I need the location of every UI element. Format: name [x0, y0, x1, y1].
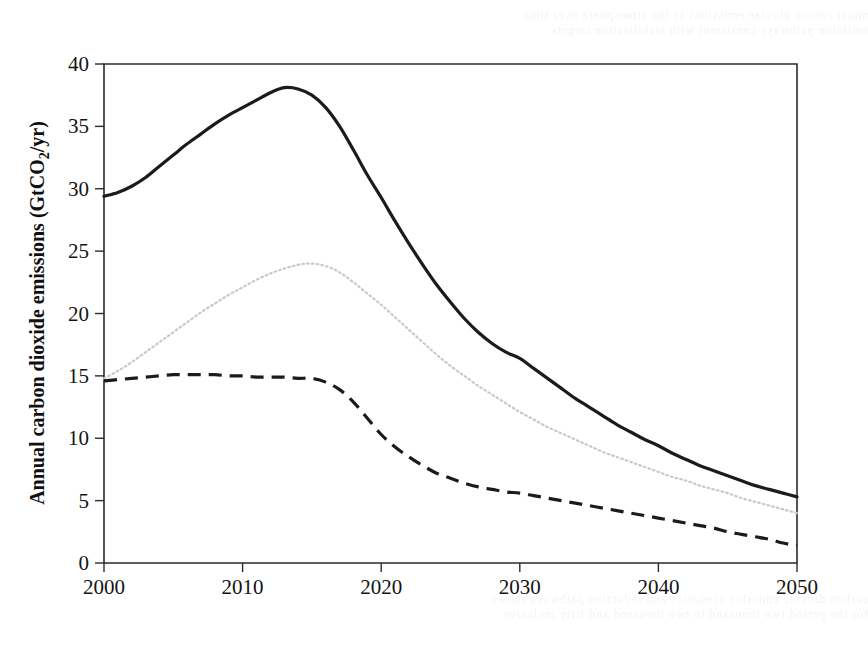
y-tick-label: 20 — [68, 302, 89, 326]
x-tick-label: 2030 — [499, 575, 541, 599]
y-tick-label: 15 — [68, 364, 89, 388]
y-tick-label: 30 — [68, 177, 89, 201]
figure-container: nnuai caroon aioxiae emissions in tne at… — [0, 0, 868, 647]
y-axis-title-prefix: Annual carbon dioxide emissions (GtCO — [26, 159, 49, 505]
y-tick-label: 10 — [68, 426, 89, 450]
svg-text:Annual carbon dioxide emission: Annual carbon dioxide emissions (GtCO2/y… — [26, 121, 52, 505]
x-tick-label: 2010 — [222, 575, 264, 599]
y-axis-ticks: 0510152025303540 — [68, 52, 104, 575]
x-tick-label: 2040 — [637, 575, 679, 599]
y-tick-label: 0 — [79, 551, 90, 575]
y-tick-label: 5 — [79, 489, 90, 513]
x-tick-label: 2000 — [83, 575, 125, 599]
data-series-layer — [104, 87, 797, 545]
plot-frame — [104, 64, 797, 563]
y-axis-title-suffix: /yr) — [26, 121, 49, 153]
y-tick-label: 35 — [68, 114, 89, 138]
x-axis-ticks: 200020102020203020402050 — [83, 563, 818, 599]
series-line-upper-pathway — [104, 87, 797, 496]
y-tick-label: 25 — [68, 239, 89, 263]
x-tick-label: 2020 — [360, 575, 402, 599]
y-axis-title: Annual carbon dioxide emissions (GtCO2/y… — [26, 121, 52, 505]
y-tick-label: 40 — [68, 52, 89, 76]
y-axis-title-subscript: 2 — [37, 152, 52, 159]
line-chart: Annual carbon dioxide emissions (GtCO2/y… — [0, 0, 868, 647]
x-tick-label: 2050 — [776, 575, 818, 599]
series-line-lower-pathway — [104, 375, 797, 546]
